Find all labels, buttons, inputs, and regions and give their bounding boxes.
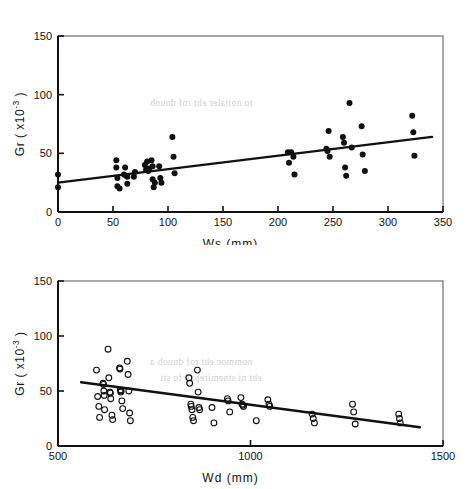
x-tick-label: 1500	[431, 450, 455, 462]
data-point	[362, 168, 368, 174]
data-point	[238, 395, 244, 401]
data-point	[194, 367, 200, 373]
data-point	[187, 380, 193, 386]
x-tick-label: 150	[214, 216, 232, 228]
data-point	[171, 154, 177, 160]
data-point	[117, 186, 123, 192]
data-point	[351, 409, 357, 415]
data-point	[156, 163, 162, 169]
data-point	[127, 410, 133, 416]
data-point	[292, 171, 298, 177]
y-tick-label: 50	[40, 147, 52, 159]
x-tick-label: 1000	[238, 450, 262, 462]
data-point	[340, 134, 346, 140]
data-point	[350, 401, 356, 407]
data-point	[325, 148, 331, 154]
regression-line	[81, 382, 420, 427]
data-point	[290, 154, 296, 160]
data-point	[97, 415, 103, 421]
data-point	[125, 372, 131, 378]
data-point	[343, 173, 349, 179]
data-point	[286, 160, 292, 166]
svg-text:Gr ( x10-3 ): Gr ( x10-3 )	[11, 92, 27, 156]
data-point	[326, 128, 332, 134]
x-tick-label: 250	[324, 216, 342, 228]
x-tick-label: 0	[55, 216, 61, 228]
data-point	[113, 157, 119, 163]
data-point	[122, 164, 128, 170]
x-tick-label: 350	[434, 216, 452, 228]
data-point	[195, 389, 201, 395]
data-point	[352, 421, 358, 427]
x-axis-label: Wd (mm)	[202, 471, 258, 485]
data-point	[209, 405, 215, 411]
data-point	[105, 346, 111, 352]
data-point	[55, 184, 61, 190]
scatter-plot-wd: 05010015050010001500Wd (mm)Gr ( x10-3 )	[0, 245, 468, 489]
y-tick-label: 100	[34, 330, 52, 342]
data-point	[172, 170, 178, 176]
data-point	[347, 100, 353, 106]
plot-frame	[58, 281, 443, 446]
y-tick-label: 100	[34, 89, 52, 101]
data-point	[186, 375, 192, 381]
data-point	[94, 367, 100, 373]
y-axis-label: Gr ( x10-3 )	[11, 92, 27, 156]
data-point	[227, 409, 233, 415]
data-point	[120, 406, 126, 412]
y-axis-label: Gr ( x10-3 )	[11, 331, 27, 395]
x-tick-label: 500	[49, 450, 67, 462]
data-point	[106, 375, 112, 381]
data-point	[342, 164, 348, 170]
data-point	[327, 154, 333, 160]
data-point	[96, 404, 102, 410]
x-tick-label: 100	[159, 216, 177, 228]
data-point	[253, 418, 259, 424]
data-point	[152, 180, 158, 186]
y-tick-label: 0	[46, 206, 52, 218]
data-point	[149, 157, 155, 163]
figure: to noitaler eht rof dnuob 05010015005010…	[0, 0, 468, 489]
x-tick-label: 50	[107, 216, 119, 228]
x-tick-label: 200	[269, 216, 287, 228]
data-point	[158, 180, 164, 186]
data-point	[127, 418, 133, 424]
svg-text:Gr ( x10-3 ): Gr ( x10-3 )	[11, 331, 27, 395]
data-point	[119, 398, 125, 404]
data-point	[349, 144, 355, 150]
data-point	[55, 171, 61, 177]
chart-panel-top: to noitaler eht rof dnuob 05010015005010…	[0, 0, 468, 245]
scatter-plot-ws: 050100150050100150200250300350Ws (mm)Gr …	[0, 0, 468, 245]
chart-panel-bottom: nommoc eht rof dnuob a eht ni stnemirepx…	[0, 245, 468, 489]
data-point	[411, 153, 417, 159]
x-tick-label: 300	[379, 216, 397, 228]
data-point	[359, 123, 365, 129]
data-point	[108, 396, 114, 402]
data-point	[360, 152, 366, 158]
y-tick-label: 150	[34, 30, 52, 42]
data-point	[95, 394, 101, 400]
data-point	[132, 169, 138, 175]
data-point	[211, 420, 217, 426]
data-point	[102, 407, 108, 413]
data-point	[410, 129, 416, 135]
data-point	[409, 113, 415, 119]
data-point	[114, 175, 120, 181]
data-point	[124, 358, 130, 364]
data-point	[124, 181, 130, 187]
data-point	[150, 163, 156, 169]
x-axis-label: Ws (mm)	[203, 237, 259, 245]
data-point	[124, 174, 130, 180]
data-point	[113, 164, 119, 170]
data-point	[169, 134, 175, 140]
data-point	[341, 140, 347, 146]
y-tick-label: 150	[34, 275, 52, 287]
y-tick-label: 50	[40, 385, 52, 397]
